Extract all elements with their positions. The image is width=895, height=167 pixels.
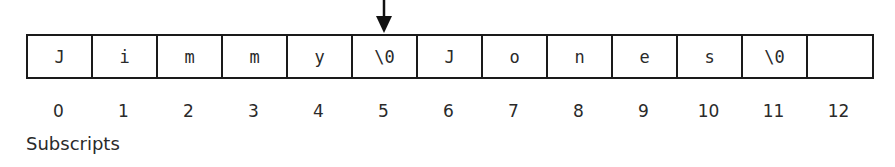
array-cell: e [613, 36, 678, 77]
subscript-label: 12 [806, 101, 871, 121]
subscript-label: 6 [416, 101, 481, 121]
subscripts-caption: Subscripts [26, 133, 120, 154]
array-cell: J [418, 36, 483, 77]
subscript-label: 5 [351, 101, 416, 121]
array-cell-pointed: \0 [353, 36, 418, 77]
array-cell: \0 [743, 36, 808, 77]
subscript-label: 7 [481, 101, 546, 121]
array-cell: s [678, 36, 743, 77]
subscript-label: 10 [676, 101, 741, 121]
array-cell-empty [808, 36, 872, 77]
subscript-label: 2 [156, 101, 221, 121]
array-cell: J [28, 36, 93, 77]
down-arrow-icon [376, 0, 392, 33]
array-cell: n [548, 36, 613, 77]
subscript-label: 0 [26, 101, 91, 121]
subscript-label: 11 [741, 101, 806, 121]
array-cell: i [93, 36, 158, 77]
array-cell: o [483, 36, 548, 77]
subscript-label: 8 [546, 101, 611, 121]
char-array: J i m m y \0 J o n e s \0 [26, 34, 874, 79]
array-cell: y [288, 36, 353, 77]
array-cell: m [223, 36, 288, 77]
subscript-row: 0 1 2 3 4 5 6 7 8 9 10 11 12 [26, 101, 871, 121]
subscript-label: 3 [221, 101, 286, 121]
subscript-label: 9 [611, 101, 676, 121]
array-cell: m [158, 36, 223, 77]
subscript-label: 4 [286, 101, 351, 121]
subscript-label: 1 [91, 101, 156, 121]
